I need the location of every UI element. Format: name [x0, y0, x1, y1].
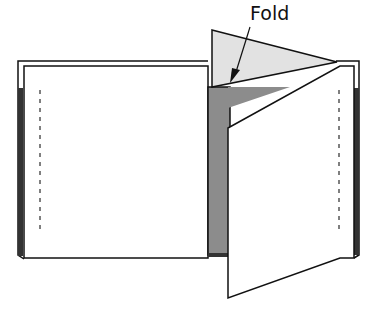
folded-booklet-diagram: [0, 0, 371, 312]
left-page: [24, 66, 208, 258]
inner-spread: [208, 87, 230, 255]
